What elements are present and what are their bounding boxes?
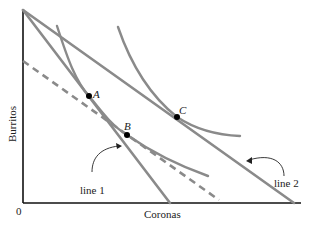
x-axis-label: Coronas bbox=[144, 208, 181, 220]
line-2-arrowhead-icon bbox=[246, 157, 252, 164]
point-c-label: C bbox=[179, 104, 187, 116]
point-b bbox=[124, 132, 130, 138]
point-a bbox=[86, 93, 92, 99]
line-1-label: line 1 bbox=[80, 184, 105, 196]
point-a-label: A bbox=[92, 88, 100, 100]
line-2-label: line 2 bbox=[274, 177, 299, 189]
y-axis-label: Burritos bbox=[6, 106, 18, 142]
line-1-arrow bbox=[92, 146, 119, 172]
budget-line-2 bbox=[23, 10, 294, 203]
line-1-arrowhead-icon bbox=[116, 143, 122, 149]
point-b-label: B bbox=[124, 120, 131, 132]
indifference-curve-upper bbox=[118, 27, 240, 136]
budget-indifference-diagram: A B C line 1 line 2 0 Coronas Burritos bbox=[0, 0, 316, 232]
origin-label: 0 bbox=[16, 205, 22, 217]
